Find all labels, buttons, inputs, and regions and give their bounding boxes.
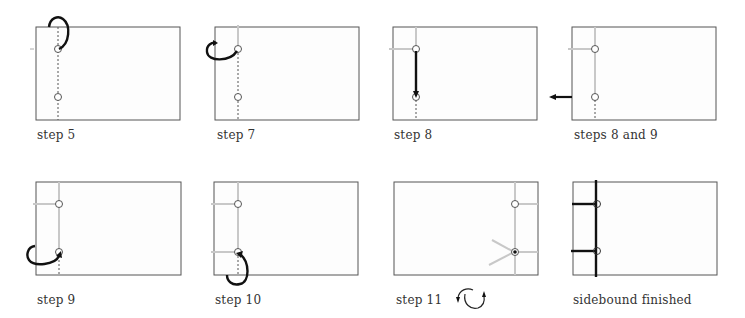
panel-step-9: step 9 — [0, 160, 190, 318]
page-rect — [573, 182, 717, 275]
sewing-hole-icon — [592, 46, 599, 53]
page-rect — [393, 27, 537, 120]
panel-step-10: step 10 — [190, 160, 380, 318]
page-rect — [394, 182, 538, 275]
caption: step 10 — [215, 293, 261, 307]
panel-steps-8-9: steps 8 and 9 — [555, 0, 745, 150]
page-rect — [36, 182, 181, 275]
panel-finished: sidebound finished — [555, 160, 745, 318]
caption: step 5 — [37, 128, 75, 142]
caption: step 9 — [37, 293, 75, 307]
step-9-illustration — [0, 160, 190, 318]
caption: step 11 — [396, 293, 442, 307]
sewing-hole-icon — [235, 94, 242, 101]
page-rect — [214, 182, 358, 275]
panel-step-7: step 7 — [190, 0, 380, 150]
sewing-hole-icon — [592, 94, 599, 101]
caption: sidebound finished — [573, 293, 692, 307]
caption: step 8 — [394, 128, 432, 142]
caption: step 7 — [217, 128, 255, 142]
panel-step-5: step 5 — [0, 0, 190, 150]
step-5-illustration — [0, 0, 190, 150]
panel-step-11: step 11 — [380, 160, 560, 318]
panel-step-8: step 8 — [375, 0, 560, 150]
caption: steps 8 and 9 — [574, 128, 658, 142]
sewing-hole-icon — [56, 201, 63, 208]
sewing-hole-icon — [235, 201, 242, 208]
sewing-hole-icon — [512, 201, 519, 208]
page-rect — [572, 27, 716, 120]
sewing-hole-icon — [55, 94, 62, 101]
page-rect — [215, 27, 359, 120]
rotate-icon — [453, 284, 493, 314]
